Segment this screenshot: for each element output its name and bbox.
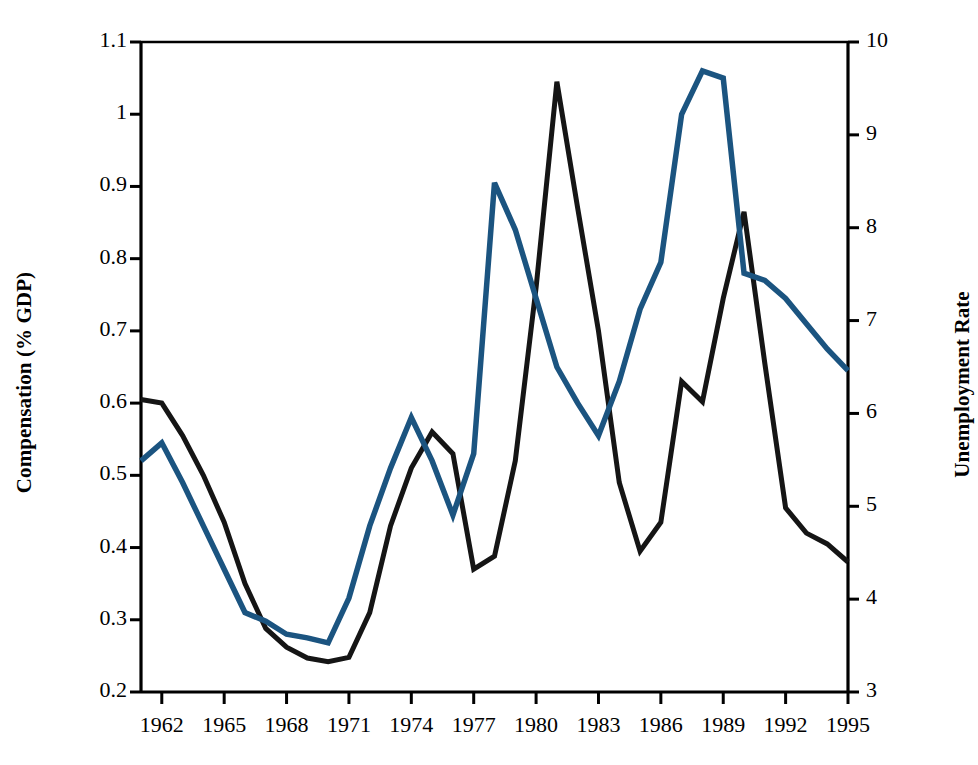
data-lines: [141, 71, 848, 662]
axis-frame: [141, 42, 848, 692]
y-tick-label-right-9: 9: [866, 120, 936, 146]
y-axis-right-ticks: [848, 42, 859, 692]
y-tick-label-right-3: 3: [866, 677, 936, 703]
chart-figure: 0.20.30.40.50.60.70.80.911.1 345678910 1…: [0, 0, 978, 765]
y-tick-label-right-5: 5: [866, 491, 936, 517]
y-axis-left-ticks: [130, 42, 141, 692]
y-tick-label-left-1.1: 1.1: [31, 27, 127, 53]
x-tick-label-1995: 1995: [803, 712, 893, 738]
y-tick-label-left-0.6: 0.6: [31, 388, 127, 414]
y-tick-label-right-4: 4: [866, 584, 936, 610]
y-tick-label-left-0.3: 0.3: [31, 605, 127, 631]
y-tick-label-right-8: 8: [866, 213, 936, 239]
y-axis-right-title: Unemployment Rate: [950, 175, 975, 595]
y-tick-label-right-10: 10: [866, 27, 936, 53]
y-axis-left-title: Compensation (% GDP): [12, 173, 37, 593]
line-unemployment-rate: [141, 82, 848, 662]
y-tick-label-left-1: 1: [31, 99, 127, 125]
y-tick-label-right-6: 6: [866, 398, 936, 424]
y-tick-label-left-0.8: 0.8: [31, 244, 127, 270]
x-axis-ticks: [162, 692, 848, 704]
y-tick-label-left-0.7: 0.7: [31, 316, 127, 342]
y-tick-label-left-0.5: 0.5: [31, 460, 127, 486]
chart-canvas: [0, 0, 978, 765]
y-tick-label-left-0.9: 0.9: [31, 171, 127, 197]
y-tick-label-right-7: 7: [866, 306, 936, 332]
y-tick-label-left-0.4: 0.4: [31, 533, 127, 559]
y-tick-label-left-0.2: 0.2: [31, 677, 127, 703]
